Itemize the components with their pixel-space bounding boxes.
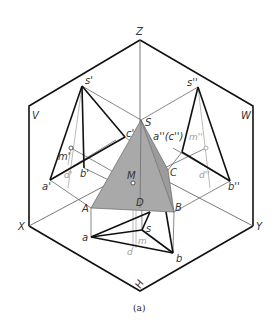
label-a-solid: A [81,203,89,214]
label-a-top: a [82,232,88,243]
label-s-prime: s' [85,75,93,86]
label-c-prime: c' [126,128,134,139]
label-b-solid: B [175,202,182,213]
label-m-solid: M [127,170,136,181]
front-view-pyramid [50,86,125,180]
label-a-c-double-prime: a''(c'') [153,131,183,142]
label-b-double-prime: b'' [228,181,240,192]
label-w-plane: W [241,110,252,121]
label-m-prime: m' [58,151,71,162]
projection-diagram: Z X Y V W H s' a' b' c' m' d' s'' a''(c'… [0,0,275,329]
label-b-prime: b' [80,168,89,179]
label-s-double-prime: s'' [187,77,198,88]
label-x-axis: X [17,221,26,232]
label-d-double-prime: d'' [199,170,210,180]
label-s-solid: S [145,117,152,128]
point-m-solid [131,181,135,185]
label-d-top: d [127,247,133,257]
label-m-double-prime: m'' [189,132,203,142]
label-d-prime: d' [64,170,72,180]
point-m-prime [69,146,73,150]
label-b-top: b [176,253,182,264]
label-y-axis: Y [256,221,263,232]
label-d-solid: D [136,197,144,208]
point-m-double-prime [204,146,208,150]
label-z-axis: Z [135,26,144,37]
label-v-plane: V [32,110,40,121]
label-a-prime: a' [42,181,51,192]
label-c-solid: C [170,167,177,178]
figure-caption: (a) [133,303,145,313]
label-m-top: m [138,236,147,246]
label-s-top: s [146,223,151,234]
